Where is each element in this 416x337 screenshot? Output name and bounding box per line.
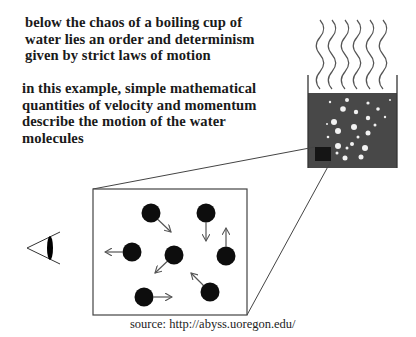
steam-line — [341, 20, 349, 89]
cup-of-water — [308, 75, 397, 168]
bubble — [366, 101, 369, 104]
bubble — [354, 110, 358, 114]
connector-line-bottom — [247, 161, 331, 315]
zoom-region-square — [315, 147, 331, 161]
bubble — [331, 119, 337, 125]
water-molecule — [197, 204, 216, 223]
bubble — [343, 156, 348, 161]
bubble — [329, 101, 331, 103]
boiling-cup-diagram — [0, 0, 416, 337]
bubble — [345, 98, 349, 102]
water-molecule — [142, 204, 161, 223]
bubble — [351, 124, 357, 130]
steam-line — [379, 20, 387, 89]
bubble — [350, 142, 354, 146]
water-molecule — [123, 243, 142, 262]
bubble — [359, 155, 364, 160]
eye-upper-lid — [27, 232, 60, 248]
water-molecule — [165, 246, 184, 265]
bubble — [346, 147, 349, 150]
eye-lens — [47, 236, 53, 260]
bubble — [326, 123, 328, 125]
bubble — [327, 136, 330, 139]
steam-line — [316, 20, 324, 89]
bubble — [357, 136, 360, 139]
magnified-molecules-box — [93, 189, 247, 315]
source-caption: source: http://abyss.uoregon.edu/ — [130, 317, 296, 332]
bubble — [362, 145, 368, 151]
steam-icon — [316, 20, 387, 89]
connector-line-top — [93, 147, 315, 189]
bubble — [335, 128, 341, 134]
bubble — [376, 107, 380, 111]
bubble — [366, 116, 370, 120]
steam-line — [328, 20, 336, 89]
water-molecule — [217, 247, 236, 266]
bubble — [384, 116, 386, 118]
steam-line — [366, 20, 374, 89]
eye-icon — [27, 232, 60, 264]
bubble — [336, 152, 339, 155]
bubble — [366, 131, 371, 136]
water-molecule — [135, 288, 154, 307]
bubble — [335, 143, 341, 149]
bubble — [374, 124, 377, 127]
eye-lower-lid — [27, 248, 60, 264]
bubble — [340, 106, 346, 112]
steam-line — [353, 20, 361, 89]
water-molecule — [201, 283, 220, 302]
bubble — [389, 99, 391, 101]
